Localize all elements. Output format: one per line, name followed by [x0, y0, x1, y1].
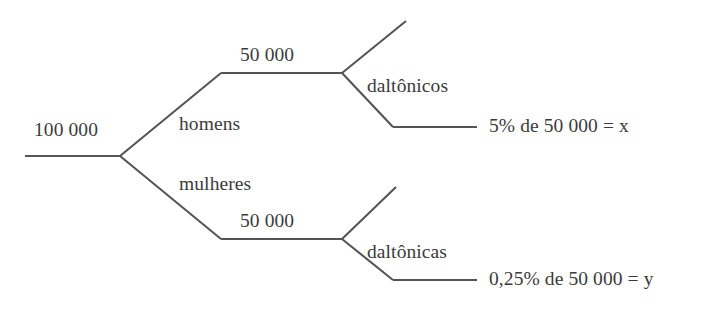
- label-homens-total: 50 000: [240, 45, 294, 65]
- label-mulheres-total: 50 000: [240, 211, 294, 231]
- label-branch-mulheres: mulheres: [179, 174, 251, 194]
- label-population-total: 100 000: [34, 120, 98, 140]
- label-daltonicas: daltônicas: [367, 242, 447, 262]
- label-result-x: 5% de 50 000 = x: [489, 116, 629, 136]
- edge-root-to-mulheres: [120, 156, 221, 239]
- edge-mulheres-upper-leaf: [342, 187, 396, 239]
- edge-homens-upper-leaf: [342, 21, 406, 73]
- label-daltonicos: daltônicos: [367, 76, 448, 96]
- label-result-y: 0,25% de 50 000 = y: [489, 269, 654, 289]
- tree-diagram: 100 000 50 000 homens mulheres 50 000 da…: [0, 0, 704, 311]
- label-branch-homens: homens: [179, 114, 240, 134]
- tree-edges: [0, 0, 704, 311]
